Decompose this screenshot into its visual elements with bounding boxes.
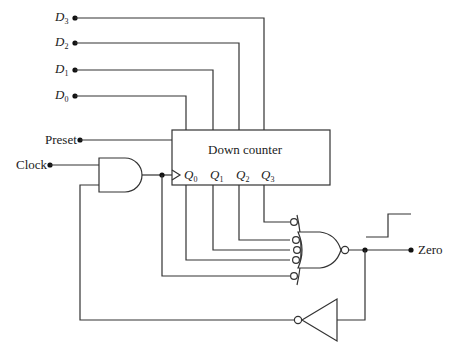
preset-label: Preset bbox=[45, 132, 77, 148]
inverter-gate-icon bbox=[294, 299, 337, 341]
counter-title: Down counter bbox=[208, 142, 282, 158]
d0-label: D0 bbox=[55, 87, 68, 104]
d3-label: D3 bbox=[55, 9, 68, 26]
q0-label: Q0 bbox=[184, 167, 197, 184]
q1-label: Q1 bbox=[210, 167, 223, 184]
d1-label: D1 bbox=[55, 61, 68, 78]
zero-terminal bbox=[408, 247, 413, 252]
q3-label: Q3 bbox=[261, 167, 274, 184]
nor-gate-icon bbox=[291, 215, 349, 285]
data-input-wires bbox=[72, 15, 264, 130]
d2-label: D2 bbox=[55, 34, 68, 51]
zero-label: Zero bbox=[418, 242, 443, 258]
clock-label: Clock bbox=[16, 157, 47, 173]
step-waveform-icon bbox=[366, 214, 411, 237]
circuit-diagram bbox=[0, 0, 451, 354]
q2-label: Q2 bbox=[236, 167, 249, 184]
and-gate-icon bbox=[99, 158, 142, 192]
